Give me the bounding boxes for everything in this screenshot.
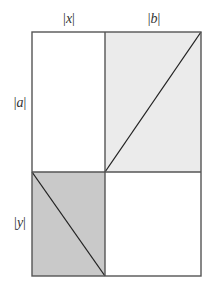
partition-diagram: |x| |b| |a| |y| — [0, 0, 213, 289]
label-top-right: |b| — [148, 11, 161, 26]
cell-bottom-right — [105, 172, 201, 276]
label-top-left: |x| — [63, 11, 75, 26]
label-left-lower: |y| — [14, 215, 26, 230]
cell-top-left — [32, 32, 105, 172]
label-left-upper: |a| — [14, 95, 27, 110]
